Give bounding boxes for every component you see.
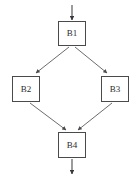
figure-caption [0, 182, 137, 190]
edge-b1-to-b3 [75, 47, 107, 73]
edge-b1-to-b2 [36, 47, 69, 73]
edge-b2-to-b4 [30, 103, 66, 130]
node-b1[interactable]: B1 [58, 21, 86, 46]
node-b2-label: B2 [21, 85, 32, 94]
node-b4-label: B4 [67, 141, 78, 150]
flowchart-diagram: B1 B2 B3 B4 [0, 0, 137, 190]
node-b4[interactable]: B4 [58, 132, 86, 158]
node-b1-label: B1 [67, 29, 78, 38]
edge-b3-to-b4 [78, 103, 112, 130]
node-b3[interactable]: B3 [101, 76, 129, 102]
node-b2[interactable]: B2 [12, 76, 40, 102]
node-b3-label: B3 [110, 85, 121, 94]
